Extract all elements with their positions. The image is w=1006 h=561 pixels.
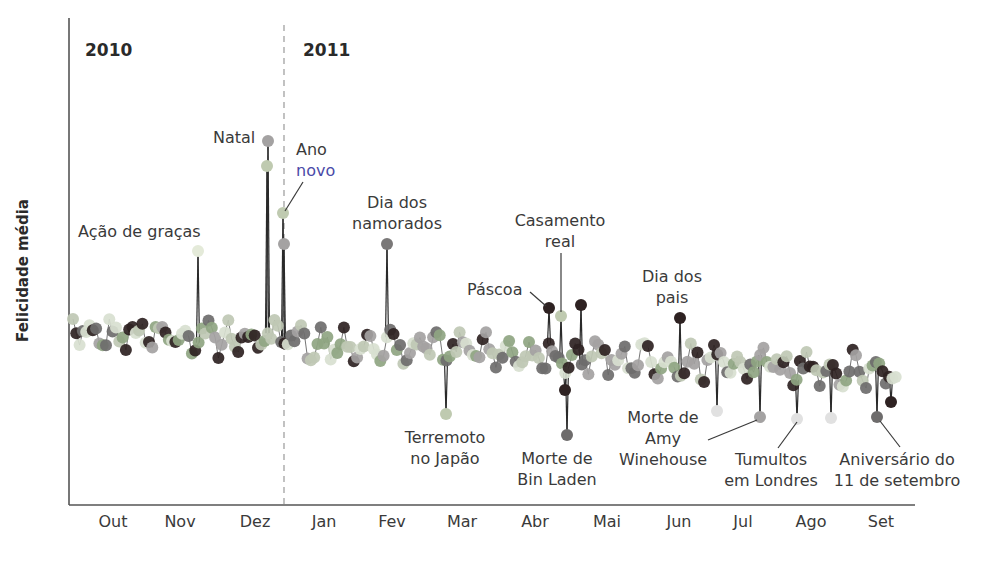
month-label-abr: Abr: [521, 512, 549, 531]
data-point: [602, 369, 614, 381]
data-point: [216, 339, 228, 351]
data-point: [424, 349, 436, 361]
year-label-2011: 2011: [303, 40, 350, 60]
annotation-amy: Morte deAmyWinehouse: [619, 407, 707, 470]
data-point: [183, 330, 195, 342]
event-spike-line: [446, 361, 448, 414]
data-point: [632, 359, 644, 371]
data-point: [434, 329, 446, 341]
data-point: [90, 322, 102, 334]
data-point: [692, 346, 704, 358]
data-point: [830, 368, 842, 380]
data-point: [315, 321, 327, 333]
data-point: [801, 346, 813, 358]
month-label-dez: Dez: [240, 512, 271, 531]
data-point: [473, 351, 485, 363]
data-point: [619, 341, 631, 353]
event-data-point: [277, 207, 289, 219]
data-point: [791, 374, 803, 386]
event-data-point: [711, 405, 723, 417]
month-label-set: Set: [868, 512, 894, 531]
data-point: [146, 341, 158, 353]
data-point: [364, 330, 376, 342]
data-point: [74, 339, 86, 351]
data-point: [232, 346, 244, 358]
month-label-mar: Mar: [447, 512, 477, 531]
data-point: [860, 382, 872, 394]
data-point: [678, 367, 690, 379]
data-point: [533, 352, 545, 364]
data-point: [388, 328, 400, 340]
month-label-nov: Nov: [164, 512, 195, 531]
data-point: [338, 321, 350, 333]
annotation-leader-tumultos: [778, 422, 797, 448]
month-label-mai: Mai: [593, 512, 621, 531]
data-point: [100, 339, 112, 351]
event-data-point: [440, 408, 452, 420]
data-point: [480, 326, 492, 338]
data-point: [67, 313, 79, 325]
annotation-binladen: Morte deBin Laden: [517, 448, 597, 490]
annotation-casamento: Casamentoreal: [515, 210, 606, 252]
data-point: [503, 335, 515, 347]
annotation-setembro: Aniversário do11 de setembro: [834, 449, 961, 491]
data-point: [814, 380, 826, 392]
data-point: [394, 339, 406, 351]
data-point: [599, 344, 611, 356]
event-data-point: [543, 302, 555, 314]
month-label-ago: Ago: [796, 512, 827, 531]
month-label-fev: Fev: [378, 512, 406, 531]
event-data-point: [754, 411, 766, 423]
annotation-terremoto: Terremotono Japão: [405, 427, 486, 469]
data-point: [563, 362, 575, 374]
event-data-point: [674, 312, 686, 324]
event-data-point: [575, 299, 587, 311]
data-point: [222, 314, 234, 326]
data-point: [698, 376, 710, 388]
annotation-leader-setembro: [880, 421, 900, 447]
data-point: [345, 341, 357, 353]
event-spike-line: [387, 244, 389, 337]
event-data-point: [192, 245, 204, 257]
data-point: [212, 352, 224, 364]
data-point: [272, 320, 284, 332]
annotation-namorados: Dia dosnamorados: [352, 192, 442, 234]
annotation-natal: Natal: [213, 127, 255, 148]
data-point: [321, 331, 333, 343]
data-point: [490, 361, 502, 373]
data-point: [308, 351, 320, 363]
event-data-point: [825, 412, 837, 424]
event-data-point: [278, 238, 290, 250]
event-data-point: [262, 135, 274, 147]
data-point: [645, 356, 657, 368]
data-point: [298, 328, 310, 340]
data-point: [781, 350, 793, 362]
year-label-2010: 2010: [85, 40, 132, 60]
annotation-tumultos: Tumultosem Londres: [724, 449, 818, 491]
data-point: [136, 318, 148, 330]
event-data-point: [561, 429, 573, 441]
month-label-jun: Jun: [667, 512, 692, 531]
event-data-point: [871, 411, 883, 423]
month-label-jan: Jan: [312, 512, 337, 531]
data-point: [120, 344, 132, 356]
y-axis-label: Felicidade média: [14, 199, 32, 342]
data-point: [642, 340, 654, 352]
data-point: [850, 349, 862, 361]
event-data-point: [885, 396, 897, 408]
data-point: [748, 366, 760, 378]
data-point: [540, 362, 552, 374]
data-point: [890, 371, 902, 383]
event-data-point: [381, 238, 393, 250]
data-point: [378, 350, 390, 362]
data-point: [688, 358, 700, 370]
data-point: [582, 368, 594, 380]
data-point: [758, 342, 770, 354]
data-point: [450, 346, 462, 358]
data-point: [110, 322, 122, 334]
data-point: [573, 344, 585, 356]
month-label-jul: Jul: [733, 512, 752, 531]
annotation-leader-amy: [708, 420, 757, 440]
event-data-point: [559, 384, 571, 396]
annotation-leader-anonovo: [285, 182, 303, 211]
